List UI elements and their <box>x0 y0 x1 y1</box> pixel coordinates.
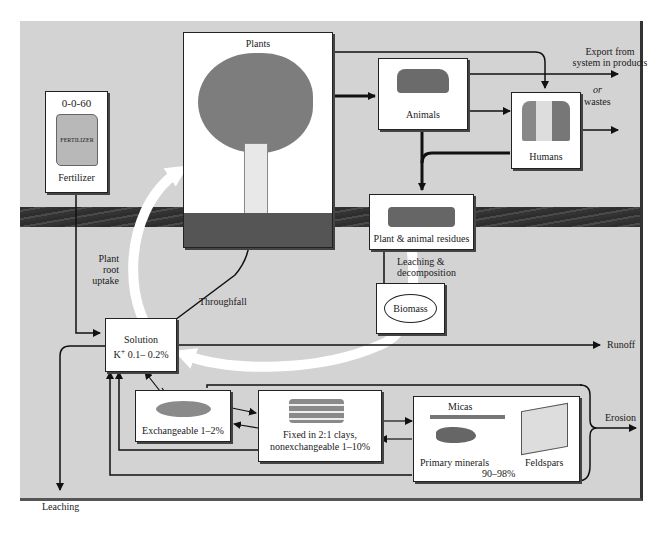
plants-box: Plants <box>183 32 333 248</box>
layered-clay-icon <box>289 399 344 423</box>
mineral-cluster-icon <box>436 427 476 443</box>
feldspars-label: Feldspars <box>525 457 563 468</box>
mica-sheets-icon <box>430 415 505 419</box>
primary-minerals-label: Primary minerals <box>420 457 489 468</box>
solution-label: Solution <box>106 334 176 345</box>
leaching-decomp-line1: Leaching & <box>397 256 456 267</box>
uptake-line3: uptake <box>91 275 119 286</box>
solution-box: Solution K+ 0.1– 0.2% <box>105 318 177 372</box>
uptake-line2: root <box>91 264 119 275</box>
tree-canopy-icon <box>198 53 313 153</box>
cow-icon <box>397 69 449 93</box>
residues-box: Plant & animal residues <box>369 194 474 250</box>
solution-k-value: K+ 0.1– 0.2% <box>106 346 176 360</box>
fertilizer-label: Fertilizer <box>46 172 107 183</box>
primary-percent-label: 90–98% <box>482 468 515 479</box>
leaching-decomposition-label: Leaching & decomposition <box>397 256 456 278</box>
plant-root-uptake-label: Plant root uptake <box>91 253 119 286</box>
export-line1: Export from <box>560 46 660 57</box>
animals-box: Animals <box>378 58 468 130</box>
animals-label: Animals <box>379 109 467 120</box>
people-icon <box>522 101 570 141</box>
fertilizer-grade: 0-0-60 <box>46 98 107 109</box>
k-percent: 0.1– 0.2% <box>125 349 168 360</box>
plants-label: Plants <box>184 38 332 49</box>
fixed-clay-box: Fixed in 2:1 clays, nonexchangeable 1–10… <box>258 390 382 462</box>
residues-label: Plant & animal residues <box>370 233 473 244</box>
export-label: Export from system in products <box>560 46 660 68</box>
throughfall-label: Throughfall <box>199 296 247 307</box>
fertilizer-bag-icon: FERTILIZER <box>56 114 98 166</box>
uptake-line1: Plant <box>91 253 119 264</box>
residue-litter-icon <box>388 207 455 227</box>
wastes-label: wastes <box>584 96 611 107</box>
exchangeable-label: Exchangeable 1–2% <box>136 425 230 436</box>
leaching-decomp-line2: decomposition <box>397 267 456 278</box>
potassium-cycle-diagram: 0-0-60 FERTILIZER Fertilizer Plants Anim… <box>0 0 666 536</box>
fertilizer-bag-text: FERTILIZER <box>57 135 97 146</box>
humans-box: Humans <box>511 92 581 169</box>
fertilizer-box: 0-0-60 FERTILIZER Fertilizer <box>45 91 108 193</box>
leaching-label: Leaching <box>42 501 79 512</box>
clay-particle-icon <box>156 401 211 417</box>
export-line2: system in products <box>560 57 660 68</box>
or-label: or <box>593 84 602 95</box>
micas-label: Micas <box>448 401 472 412</box>
exchangeable-box: Exchangeable 1–2% <box>135 390 231 442</box>
fixed-line1: Fixed in 2:1 clays, <box>259 429 381 440</box>
humans-label: Humans <box>512 151 580 162</box>
runoff-label: Runoff <box>607 339 635 350</box>
plants-soil <box>184 213 332 247</box>
feldspar-crystal-icon <box>521 403 568 455</box>
fixed-line2: nonexchangeable 1–10% <box>259 441 381 452</box>
erosion-label: Erosion <box>605 412 636 423</box>
k-symbol: K <box>113 349 120 360</box>
biomass-label: Biomass <box>377 303 444 314</box>
primary-minerals-box: Micas Primary minerals Feldspars 90–98% <box>413 396 580 482</box>
biomass-box: Biomass <box>376 283 445 334</box>
